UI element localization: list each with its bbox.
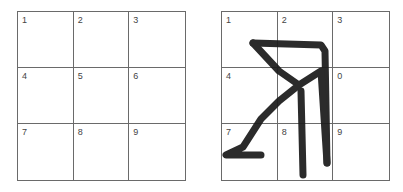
cell-number: 7 — [226, 127, 231, 137]
cell-number: 1 — [22, 15, 27, 25]
grid-cell[interactable]: 4 — [222, 68, 278, 124]
cell-number: 8 — [78, 127, 83, 137]
cell-number: 3 — [337, 15, 342, 25]
grid-cell[interactable]: 4 — [18, 68, 74, 124]
cell-number: 8 — [282, 127, 287, 137]
cell-number: 4 — [22, 71, 27, 81]
cell-number: 9 — [337, 127, 342, 137]
cell-number: 5 — [78, 71, 83, 81]
cell-number: 9 — [133, 127, 138, 137]
grid-cell[interactable] — [278, 68, 334, 124]
grid-cell[interactable]: 2 — [74, 12, 130, 68]
cell-number: 6 — [133, 71, 138, 81]
grid-cell[interactable]: 1 — [18, 12, 74, 68]
cell-number: 1 — [226, 15, 231, 25]
cell-number: 3 — [133, 15, 138, 25]
cell-number: 0 — [337, 71, 342, 81]
grid-cell[interactable]: 8 — [278, 124, 334, 180]
grid-cell[interactable]: 3 — [129, 12, 185, 68]
grid-cell[interactable]: 5 — [74, 68, 130, 124]
grid-cell[interactable]: 7 — [18, 124, 74, 180]
grid-cell[interactable]: 0 — [333, 68, 389, 124]
drawn-grid: 1 2 3 4 0 7 8 9 — [221, 11, 390, 181]
cell-number: 2 — [282, 15, 287, 25]
cell-number: 4 — [226, 71, 231, 81]
grid-cell[interactable]: 6 — [129, 68, 185, 124]
cell-number: 2 — [78, 15, 83, 25]
cell-number: 7 — [22, 127, 27, 137]
grid-cell[interactable]: 8 — [74, 124, 130, 180]
blank-grid: 1 2 3 4 5 6 7 8 9 — [17, 11, 186, 181]
grid-cell[interactable]: 7 — [222, 124, 278, 180]
grid-cell[interactable]: 2 — [278, 12, 334, 68]
grid-cell[interactable]: 9 — [129, 124, 185, 180]
grid-cell[interactable]: 3 — [333, 12, 389, 68]
grid-cell[interactable]: 1 — [222, 12, 278, 68]
grid-cell[interactable]: 9 — [333, 124, 389, 180]
